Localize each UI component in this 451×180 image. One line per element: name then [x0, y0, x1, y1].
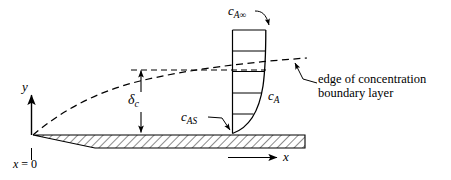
label-edge-of-concentration-boundary-layer: edge of concentration boundary layer [318, 72, 426, 100]
concentration-profile [233, 30, 266, 134]
c-a-subscript: A [274, 95, 280, 105]
edge-label-line-2: boundary layer [318, 86, 426, 100]
plate-hatch-fill [33, 135, 305, 148]
c-a-infinity-leader [255, 11, 269, 25]
label-c-a-infinity: cA∞ [228, 4, 246, 20]
label-y-axis: y [22, 80, 28, 95]
label-delta-c: δc [128, 92, 139, 109]
label-c-as: cAS [181, 110, 197, 126]
concentration-boundary-layer-figure: cA∞ cA cAS δc y x x = 0 edge of concentr… [0, 0, 451, 180]
equals-zero: = 0 [18, 157, 37, 171]
label-c-a: cA [268, 89, 280, 105]
flat-plate [33, 135, 305, 148]
c-a-infinity-subscript: A∞ [234, 10, 246, 20]
delta-c-subscript: c [135, 98, 139, 109]
c-a-infinity-leader-line [255, 11, 269, 25]
c-as-leader [208, 117, 230, 130]
profile-curve [233, 30, 266, 134]
edge-label-leader-line [295, 63, 317, 83]
label-x-axis: x [283, 150, 289, 165]
edge-label-leader [295, 63, 317, 83]
c-as-leader-line [208, 117, 230, 130]
edge-label-line-1: edge of concentration [318, 72, 426, 86]
label-x-equals-zero: x = 0 [13, 158, 37, 171]
c-as-subscript: AS [187, 116, 197, 126]
